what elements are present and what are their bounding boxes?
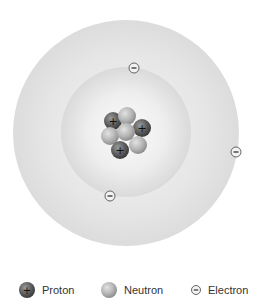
legend-label: Electron — [208, 284, 248, 296]
legend-item-electron: Electron — [190, 278, 248, 302]
electron-icon — [129, 63, 139, 73]
legend: + Proton Neutron Electron — [0, 278, 259, 302]
atom-diagram: + + + — [0, 0, 259, 265]
svg-text:+: + — [108, 115, 117, 128]
proton-icon: + — [18, 281, 36, 299]
legend-label: Neutron — [124, 284, 163, 296]
neutron-icon — [100, 281, 118, 299]
electron-icon — [231, 147, 241, 157]
svg-text:+: + — [137, 122, 146, 135]
legend-label: Proton — [42, 284, 74, 296]
legend-item-neutron: Neutron — [100, 278, 163, 302]
svg-text:+: + — [115, 144, 124, 157]
neutron-icon — [118, 107, 136, 125]
proton-icon: + — [133, 119, 151, 137]
electron-icon — [190, 284, 202, 296]
neutron-icon — [117, 123, 135, 141]
electron-icon — [105, 191, 115, 201]
svg-text:+: + — [23, 285, 31, 296]
legend-item-proton: + Proton — [18, 278, 74, 302]
proton-icon: + — [111, 141, 129, 159]
